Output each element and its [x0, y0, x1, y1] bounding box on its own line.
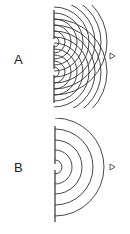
detector-marker-b [110, 164, 115, 170]
detector-marker-a [110, 53, 115, 59]
wave-diagram [0, 0, 130, 234]
panel-a-diagram [1, 0, 115, 125]
panel-b-diagram [6, 118, 115, 222]
